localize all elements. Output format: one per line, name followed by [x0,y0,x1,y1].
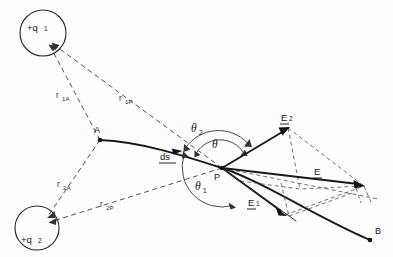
charge-q2: +q 2 [15,206,59,250]
arrowhead-r2P-at-q2 [49,218,57,225]
distance-base-r1A: r [56,90,59,100]
vector-shaft-E2 [222,131,284,168]
angle-glyph-theta2: θ [191,122,197,134]
field-vector-E-resultant [222,168,365,189]
vector-label-E: E [313,166,322,178]
distance-sub-r1A: 1A [62,95,70,102]
distance-sub-r1P: 1P [125,98,133,105]
arrowhead-theta1-end [229,203,237,210]
point-marker-P [220,166,225,171]
vector-base-ds: ds [160,151,170,162]
vector-base-E: E [314,166,320,177]
angle-sub-theta1: 1 [203,187,207,194]
radius-line-r1P [53,44,222,168]
point-label-A: A [94,125,100,135]
distance-sub-r2P: 2P [106,204,114,211]
charge-label-q1: +q [27,22,38,33]
angle-glyph-theta1: θ [195,180,201,192]
physics-diagram-figure: +q 1 +q 2 r 1A r 1P r 2A r 2P A B P ds [0,0,393,257]
distance-label-r1P: r 1P [119,93,133,105]
construction-drop-from-E2 [288,128,300,189]
point-label-P: P [214,172,220,182]
point-label-B: B [375,226,381,236]
point-marker-B [368,238,373,243]
path-curve-P-to-B [222,168,370,240]
vector-sub-E2: 2 [289,115,293,122]
construction-foot-mark-right [364,186,371,202]
angle-label-theta: θ [212,138,218,150]
distance-label-r1A: r 1A [56,90,70,102]
vector-base-E2: E [281,112,287,123]
angle-label-theta1: θ 1 [195,180,207,194]
path-curve-group [100,140,370,240]
charge-sub-q2: 2 [38,237,42,244]
vector-sub-E1: 1 [256,200,260,207]
vector-label-E1: E 1 [247,197,260,209]
distance-base-r2P: r [100,199,103,209]
distance-base-r2A: r [57,179,60,189]
charge-sub-q1: 1 [44,25,48,32]
charge-q1: +q 1 [20,10,66,56]
point-marker-A [98,138,103,143]
arrowhead-E [354,180,366,189]
distance-base-r1P: r [119,93,122,103]
diagram-canvas: +q 1 +q 2 r 1A r 1P r 2A r 2P A B P ds [0,0,393,257]
distance-label-r2P: r 2P [100,199,114,211]
angle-sub-theta2: 2 [199,129,203,136]
angle-label-theta2: θ 2 [191,122,203,136]
distance-sub-r2A: 2A [63,184,71,191]
vector-base-E1: E [248,197,254,208]
angle-glyph-theta: θ [212,138,218,150]
distance-label-r2A: r 2A [57,179,71,191]
angle-arc-theta [196,140,244,154]
vector-label-E2: E 2 [280,112,293,124]
charge-label-q2: +q [21,234,32,245]
charge-circle-q1 [20,10,66,56]
radius-line-r2A [48,140,100,216]
construction-line-E1-to-E [285,186,364,215]
